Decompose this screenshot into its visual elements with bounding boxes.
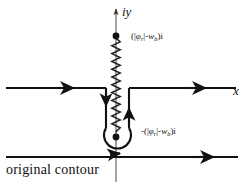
lower-label-close: )i [170, 126, 176, 136]
figure-canvas [0, 0, 248, 184]
upper-branch-point-dot [113, 33, 120, 40]
original-contour-caption: original contour [6, 163, 99, 177]
real-axis-label: x [233, 84, 239, 97]
lower-branch-point-label: -(|φr|-wb)i [141, 127, 176, 137]
contour-deformation-figure: iy x (|φr|-wb)i -(|φr|-wb)i original con… [0, 0, 248, 184]
lower-label-lead: -(| [141, 126, 149, 136]
upper-label-close: )i [157, 31, 163, 41]
upper-branch-point-label: (|φr|-wb)i [131, 32, 163, 42]
contour-loop-arrow [110, 153, 120, 154]
deformed-contour [6, 88, 236, 155]
imaginary-axis-label: iy [122, 5, 131, 18]
lower-branch-point-dot [113, 134, 120, 141]
